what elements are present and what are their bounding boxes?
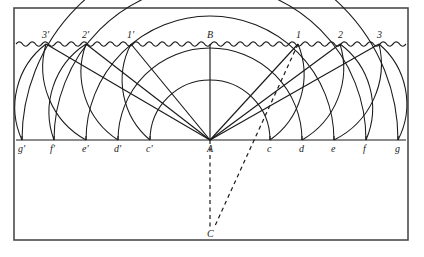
surface-label-2p: 2'	[82, 30, 89, 40]
point-label-A: A	[207, 144, 213, 154]
baseline-label-d: d	[299, 144, 304, 154]
ray-A-to-3p	[46, 44, 210, 140]
surface-label-3: 3	[377, 30, 382, 40]
baseline-label-g: g	[395, 144, 400, 154]
water-surface-line	[16, 42, 406, 46]
wavelet-right-3	[334, 44, 381, 140]
point-label-C: C	[207, 229, 214, 239]
surface-label-3p: 3'	[42, 30, 49, 40]
ray-A-to-1	[210, 44, 298, 140]
surface-label-1p: 1'	[127, 30, 134, 40]
dashed-construction-lines-group	[210, 44, 298, 228]
baseline-label-cp: c'	[146, 144, 153, 154]
baseline-label-ep: e'	[82, 144, 89, 154]
wavelet-left-3p	[43, 44, 86, 140]
surface-label-2: 2	[338, 30, 343, 40]
point-label-B: B	[207, 30, 213, 40]
wavelet-left-3p-outer	[15, 44, 46, 140]
surface-label-1: 1	[296, 30, 301, 40]
wavelet-right-2-outer	[340, 44, 373, 140]
wavelet-left-1p	[122, 44, 150, 140]
baseline-label-dp: d'	[114, 144, 121, 154]
secondary-wavefront-arcs-group	[15, 44, 407, 140]
baseline-label-f: f	[363, 144, 366, 154]
baseline-label-gp: g'	[18, 144, 25, 154]
ray-A-to-2p	[86, 44, 210, 140]
baseline-label-e: e	[331, 144, 335, 154]
baseline-label-fp: f'	[50, 144, 55, 154]
figure-canvas: g'f'e'd'c'cdefgA1'2'3'123BC	[0, 0, 424, 257]
baseline-label-c: c	[267, 144, 271, 154]
water-surface-group	[16, 42, 406, 46]
ray-A-to-1p	[131, 44, 210, 140]
ray-A-to-3	[210, 44, 379, 140]
refracted-ray-1-to-C	[214, 44, 298, 228]
wavelet-right-2	[302, 44, 344, 140]
wavelet-right-3-outer	[379, 44, 407, 140]
